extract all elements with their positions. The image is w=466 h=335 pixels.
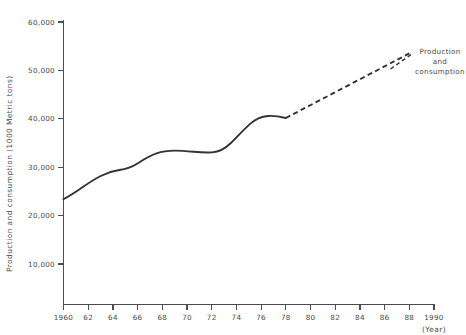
x-axis-ticks [64,305,435,311]
x-tick-label-1984: 84 [355,313,365,322]
x-tick-label-1962: 62 [83,313,93,322]
x-tick-label-1978: 78 [281,313,291,322]
y-tick-label-20000: 20,000 [28,211,55,220]
series-annotation: Production and consumption [415,47,465,76]
y-axis-tick-labels: 10,000 20,000 30,000 40,000 50,000 60,00… [28,18,55,269]
y-tick-label-30000: 30,000 [28,163,55,172]
x-tick-label-1964: 64 [108,313,118,322]
y-tick-label-50000: 50,000 [28,66,55,75]
annotation-line-1: Production [419,47,460,56]
production-consumption-line-chart: 10,000 20,000 30,000 40,000 50,000 60,00… [0,0,466,335]
x-tick-label-1972: 72 [207,313,217,322]
x-axis-tick-labels: 1960 62 64 66 68 70 72 74 76 78 80 82 84… [54,313,444,322]
y-axis-ticks [58,22,64,264]
x-tick-label-1966: 66 [133,313,143,322]
y-tick-label-10000: 10,000 [28,260,55,269]
x-axis-title: (Year) [422,325,446,334]
x-tick-label-1970: 70 [182,313,192,322]
chart-container: 10,000 20,000 30,000 40,000 50,000 60,00… [0,0,466,335]
series-line-historical [64,116,286,199]
y-axis-title: Production and consumption (1000 Metric … [5,75,14,272]
annotation-line-3: consumption [415,67,465,76]
x-tick-label-1968: 68 [157,313,167,322]
x-tick-label-1990: 1990 [424,313,444,322]
x-tick-label-1988: 88 [404,313,414,322]
x-tick-label-1982: 82 [330,313,340,322]
x-tick-label-1976: 76 [256,313,266,322]
x-tick-label-1960: 1960 [54,313,74,322]
y-tick-label-60000: 60,000 [28,18,55,27]
x-tick-label-1974: 74 [232,313,242,322]
y-tick-label-40000: 40,000 [28,114,55,123]
annotation-line-2: and [433,57,447,66]
series-line-projection [286,52,412,118]
x-tick-label-1986: 86 [380,313,390,322]
x-tick-label-1980: 80 [306,313,316,322]
